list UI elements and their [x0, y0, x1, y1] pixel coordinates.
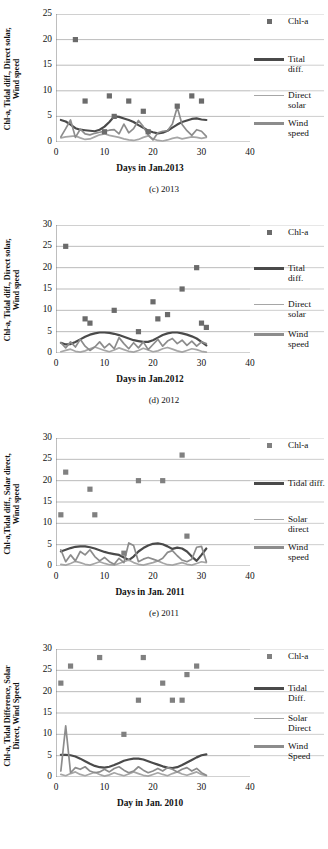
plot-area: [56, 14, 250, 142]
legend-label: Direct solar: [288, 299, 311, 320]
legend-label: Tital diff.: [288, 54, 305, 75]
legend-line-icon: [252, 118, 286, 129]
y-tick-label: 5: [28, 540, 52, 549]
y-tick-label: 0: [28, 348, 52, 357]
square-marker-icon: [267, 654, 272, 659]
x-tick-label: 40: [238, 783, 262, 792]
data-point-marker: [102, 129, 107, 134]
legend-line-icon: [252, 299, 286, 310]
chart-svg: [56, 14, 250, 142]
legend-item: Chl-a: [252, 16, 308, 27]
y-tick-label: 20: [28, 476, 52, 485]
x-tick-label: 20: [141, 359, 165, 368]
data-point-marker: [184, 672, 189, 677]
data-point-marker: [150, 299, 155, 304]
data-point-marker: [126, 98, 131, 103]
x-tick-label: 10: [93, 148, 117, 157]
series-line-solar-direct: [61, 772, 207, 776]
legend-item: Tidal Diff.: [252, 683, 307, 704]
legend-item: Direct solar: [252, 299, 311, 320]
data-point-marker: [58, 512, 63, 517]
legend-label: Direct solar: [288, 90, 311, 111]
line-swatch-icon: [254, 519, 284, 521]
legend-item: Chl-a: [252, 227, 308, 238]
x-tick-label: 40: [238, 572, 262, 581]
series-line-wind-speed: [61, 726, 207, 775]
legend-item: Wind speed: [252, 542, 309, 563]
y-tick-label: 10: [28, 86, 52, 95]
data-point-marker: [63, 470, 68, 475]
data-point-marker: [87, 321, 92, 326]
x-tick-label: 0: [44, 359, 68, 368]
y-tick-label: 20: [28, 687, 52, 696]
y-tick-label: 25: [28, 454, 52, 463]
plot-area: [56, 225, 250, 353]
data-point-marker: [112, 114, 117, 119]
data-point-marker: [136, 478, 141, 483]
legend-label: Chl-a: [288, 16, 308, 26]
legend-item: Chl-a: [252, 651, 308, 662]
x-tick-label: 30: [190, 783, 214, 792]
legend-line-icon: [252, 514, 286, 525]
y-tick-label: 15: [28, 708, 52, 717]
legend-label: Wind speed: [288, 118, 309, 139]
data-point-marker: [92, 512, 97, 517]
legend-line-icon: [252, 90, 286, 101]
data-point-marker: [189, 93, 194, 98]
y-tick-label: 25: [28, 241, 52, 250]
y-tick-label: 30: [28, 220, 52, 229]
legend-item: Tidal diff.: [252, 478, 325, 489]
legend-item: Wind Speed: [252, 741, 310, 762]
legend-marker-icon: [252, 651, 286, 662]
x-axis-title: Day in Jan. 2010: [40, 798, 260, 808]
chart-svg: [56, 225, 250, 353]
legend-label: Chl-a: [288, 440, 308, 450]
legend-item: Tital diff.: [252, 263, 305, 284]
y-tick-label: 20: [28, 263, 52, 272]
data-point-marker: [121, 732, 126, 737]
data-point-marker: [155, 316, 160, 321]
line-swatch-icon: [254, 482, 284, 485]
data-point-marker: [121, 551, 126, 556]
panel-2010: Chl-a, Tidal Difference, Solar Direct, W…: [0, 635, 328, 849]
data-point-marker: [136, 698, 141, 703]
legend-line-icon: [252, 713, 286, 724]
series-line-direct-solar: [61, 134, 207, 141]
data-point-marker: [146, 129, 151, 134]
legend-line-icon: [252, 741, 286, 752]
data-point-marker: [199, 321, 204, 326]
x-tick-label: 30: [190, 572, 214, 581]
series-line-tidal-diff: [61, 754, 207, 768]
y-tick-label: 10: [28, 518, 52, 527]
data-point-marker: [160, 478, 165, 483]
panel-2011: Chl-a,Tidal diff., Solar direct, Wind sp…: [0, 424, 328, 635]
legend-line-icon: [252, 542, 286, 553]
y-axis-title: Chl-a, Tidal diff., Direct solar, Wind s…: [3, 215, 21, 365]
line-swatch-icon: [254, 304, 284, 306]
line-swatch-icon: [254, 745, 284, 747]
data-point-marker: [87, 487, 92, 492]
legend-label: Solar Direct: [288, 713, 311, 734]
x-axis-title: Days in Jan.2013: [40, 163, 260, 173]
data-point-marker: [180, 286, 185, 291]
data-point-marker: [194, 663, 199, 668]
data-point-marker: [83, 316, 88, 321]
line-swatch-icon: [254, 58, 284, 61]
x-tick-label: 10: [93, 572, 117, 581]
data-point-marker: [68, 663, 73, 668]
line-swatch-icon: [254, 333, 284, 335]
y-tick-label: 10: [28, 729, 52, 738]
line-swatch-icon: [254, 95, 284, 97]
y-tick-label: 30: [28, 644, 52, 653]
data-point-marker: [199, 98, 204, 103]
line-swatch-icon: [254, 687, 284, 690]
legend-label: Chl-a: [288, 651, 308, 661]
x-tick-label: 0: [44, 783, 68, 792]
square-marker-icon: [267, 443, 272, 448]
y-tick-label: 25: [28, 665, 52, 674]
data-point-marker: [58, 681, 63, 686]
y-axis-title: Chl-a,Tidal diff., Solar direct, Wind sp…: [3, 428, 21, 580]
y-tick-label: 30: [28, 433, 52, 442]
data-point-marker: [97, 655, 102, 660]
legend-label: Tidal Diff.: [288, 683, 307, 704]
